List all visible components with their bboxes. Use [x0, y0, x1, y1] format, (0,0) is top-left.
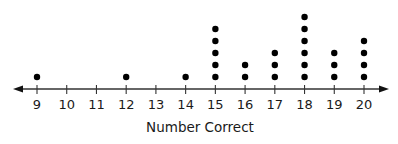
- data-dot: [331, 50, 337, 56]
- data-dots: [34, 14, 367, 80]
- tick-label: 9: [33, 97, 41, 112]
- data-dot: [212, 74, 218, 80]
- data-dot: [242, 74, 248, 80]
- data-dot: [331, 62, 337, 68]
- data-dot: [242, 62, 248, 68]
- tick-label: 20: [356, 97, 373, 112]
- data-dot: [272, 62, 278, 68]
- data-dot: [301, 50, 307, 56]
- data-dot: [301, 74, 307, 80]
- number-line: [13, 86, 389, 93]
- data-dot: [272, 50, 278, 56]
- x-axis-tick-labels: 91011121314151617181920: [33, 97, 372, 112]
- data-dot: [212, 50, 218, 56]
- data-dot: [301, 38, 307, 44]
- x-axis-title: Number Correct: [146, 119, 254, 135]
- data-dot: [212, 62, 218, 68]
- tick-label: 15: [207, 97, 224, 112]
- tick-label: 10: [58, 97, 75, 112]
- right-arrow-icon: [379, 86, 389, 93]
- data-dot: [301, 62, 307, 68]
- data-dot: [301, 14, 307, 20]
- data-dot: [212, 26, 218, 32]
- data-dot: [331, 74, 337, 80]
- data-dot: [272, 74, 278, 80]
- data-dot: [361, 74, 367, 80]
- dot-plot: 91011121314151617181920 Number Correct: [0, 0, 398, 144]
- data-dot: [182, 74, 188, 80]
- tick-label: 18: [296, 97, 313, 112]
- tick-label: 16: [237, 97, 254, 112]
- data-dot: [212, 38, 218, 44]
- tick-label: 14: [177, 97, 194, 112]
- data-dot: [361, 50, 367, 56]
- tick-label: 17: [267, 97, 284, 112]
- data-dot: [361, 62, 367, 68]
- data-dot: [123, 74, 129, 80]
- tick-label: 19: [326, 97, 343, 112]
- tick-label: 12: [118, 97, 135, 112]
- data-dot: [361, 38, 367, 44]
- tick-label: 11: [88, 97, 105, 112]
- tick-label: 13: [148, 97, 165, 112]
- left-arrow-icon: [13, 86, 23, 93]
- data-dot: [301, 26, 307, 32]
- data-dot: [34, 74, 40, 80]
